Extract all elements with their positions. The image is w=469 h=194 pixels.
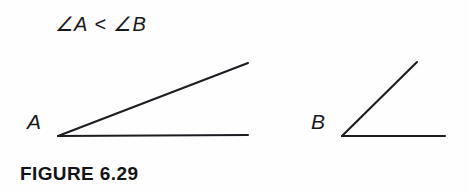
angle-a-horizontal-ray xyxy=(58,135,248,136)
figure-caption: FIGURE 6.29 xyxy=(20,163,138,186)
vertex-label-b: B xyxy=(311,111,325,132)
angle-b-group xyxy=(342,62,445,136)
figure-container: ∠A < ∠B A B FIGURE 6.29 xyxy=(0,0,469,194)
vertex-label-a: A xyxy=(27,111,41,132)
angle-a-slanted-ray xyxy=(58,63,248,136)
angle-a-group xyxy=(58,63,248,136)
angle-b-slanted-ray xyxy=(342,62,417,136)
